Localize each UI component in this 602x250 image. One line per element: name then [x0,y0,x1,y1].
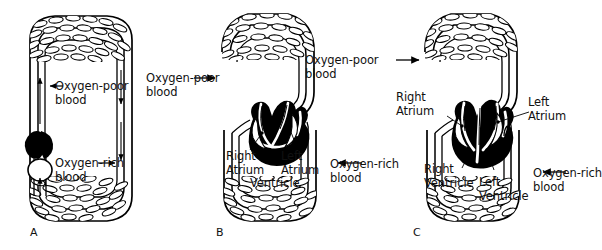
panel-letter-b: B [216,226,224,239]
panel-c-right-ventricle-label: RightVentricle [424,163,473,190]
panel-c-left-atrium-label: LeftAtrium [528,96,566,123]
panel-a-oxygen-poor-label: Oxygen-poorblood [55,80,128,107]
panel-a-gill-capillary-bed [25,15,131,64]
panel-c-left-ventricle-label: LeftVentricle [479,176,528,203]
panel-b-ventricle-label: Ventricle [250,177,299,191]
panel-a-oxygen-rich-label: Oxygen-richblood [55,157,124,184]
panel-b-right-atrium-label: RightAtrium [226,150,264,177]
panel-c-heart [435,100,529,170]
oxygen-poor-callout-ab: Oxygen-poorblood [146,72,219,99]
oxygen-poor-callout-bc: Oxygen-poorblood [305,54,378,81]
panel-letter-a: A [30,226,38,239]
panel-c-right-atrium-label: RightAtrium [396,91,434,118]
panel-b-left-atrium-label: LeftAtrium [281,150,319,177]
panel-a-fish-circulation [25,15,132,223]
oxygen-rich-callout-bc: Oxygen-richblood [330,158,399,185]
panel-letter-c: C [413,226,421,239]
panel-b-amphibian-circulation [194,12,362,223]
oxygen-rich-callout-c: Oxygen-richblood [533,167,602,194]
